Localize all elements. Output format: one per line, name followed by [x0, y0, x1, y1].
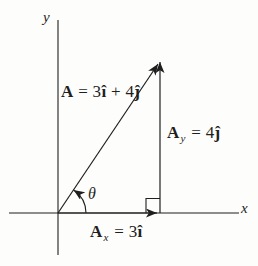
- vector-components-figure: y x A = 3î + 4ĵ θ Ay = 4ĵ Ax = 3î: [0, 0, 258, 266]
- vector-a-symbol: A: [61, 82, 74, 101]
- x-component-label: Ax = 3î: [90, 223, 143, 240]
- y-axis-label: y: [43, 10, 50, 25]
- x-component-symbol: A: [90, 222, 103, 241]
- angle-theta-label: θ: [88, 186, 96, 202]
- right-angle-marker: [146, 199, 160, 214]
- x-axis-label: x: [241, 201, 248, 216]
- i-hat-symbol: î: [138, 222, 143, 241]
- y-component-eq: = 4: [187, 123, 215, 142]
- x-component-eq: = 3: [110, 222, 138, 241]
- x-component-subscript: x: [104, 231, 109, 243]
- y-component-subscript: y: [181, 132, 186, 144]
- y-component-label: Ay = 4ĵ: [167, 124, 221, 141]
- j-hat-symbol: ĵ: [215, 123, 221, 142]
- j-hat-symbol: ĵ: [134, 82, 140, 101]
- vector-a-eq: = 3: [74, 82, 102, 101]
- angle-arc: [74, 190, 86, 213]
- y-component-symbol: A: [167, 123, 180, 142]
- vector-a-label: A = 3î + 4ĵ: [61, 83, 140, 100]
- vector-a-plus: + 4: [106, 82, 134, 101]
